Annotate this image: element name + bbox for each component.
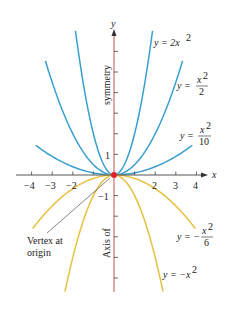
svg-text:2: 2 xyxy=(203,70,208,81)
x-tick-label: −2 xyxy=(66,180,77,191)
svg-text:y =: y = xyxy=(179,130,194,141)
svg-text:6: 6 xyxy=(204,237,209,248)
svg-text:2: 2 xyxy=(206,120,211,131)
y-axis-label: y xyxy=(110,18,116,29)
y-tick-label: 1 xyxy=(105,150,110,161)
svg-text:y = −x: y = −x xyxy=(162,269,191,280)
svg-text:x: x xyxy=(201,225,207,236)
vertex-label-line2: origin xyxy=(27,247,51,258)
svg-text:y = 2x: y = 2x xyxy=(153,37,180,48)
x-tick-label: −4 xyxy=(24,180,35,191)
axis-of-symmetry-label-upper: symmetry xyxy=(101,65,112,105)
svg-text:2: 2 xyxy=(199,86,204,97)
y-tick-label: −1 xyxy=(98,191,109,202)
axis-of-symmetry-label-lower: Axis of xyxy=(101,228,112,258)
svg-text:y =: y = xyxy=(176,80,191,91)
curve-label-2x2: y = 2x 2 xyxy=(153,32,191,48)
svg-text:2: 2 xyxy=(192,264,197,275)
vertex-point xyxy=(111,172,117,178)
x-tick-label: 4 xyxy=(193,180,198,191)
curve-label-neg-x2: y = −x 2 xyxy=(162,264,197,280)
vertex-label-line1: Vertex at xyxy=(27,235,63,246)
x-tick-label: −3 xyxy=(45,180,56,191)
y-axis: y 1 −1 symmetry Axis of xyxy=(98,18,118,292)
svg-text:y = −: y = − xyxy=(176,231,200,242)
svg-text:2: 2 xyxy=(208,221,213,232)
svg-text:x: x xyxy=(199,124,205,135)
x-tick-label: 3 xyxy=(173,180,178,191)
x-axis-label: x xyxy=(211,169,217,180)
curve-label-x2-over-10: y = x 2 10 xyxy=(179,120,211,147)
svg-text:2: 2 xyxy=(186,32,191,43)
x-tick-label: 2 xyxy=(152,180,157,191)
x-axis: x −4 −3 −2 2 3 4 xyxy=(16,169,217,191)
curve-label-x2-over-2: y = x 2 2 xyxy=(176,70,208,97)
parabola-chart: x −4 −3 −2 2 3 4 y 1 −1 symmetry Axis of… xyxy=(0,0,229,309)
svg-text:x: x xyxy=(196,74,202,85)
curve-label-neg-x2-over-6: y = − x 2 6 xyxy=(176,221,213,248)
svg-text:10: 10 xyxy=(199,136,209,147)
